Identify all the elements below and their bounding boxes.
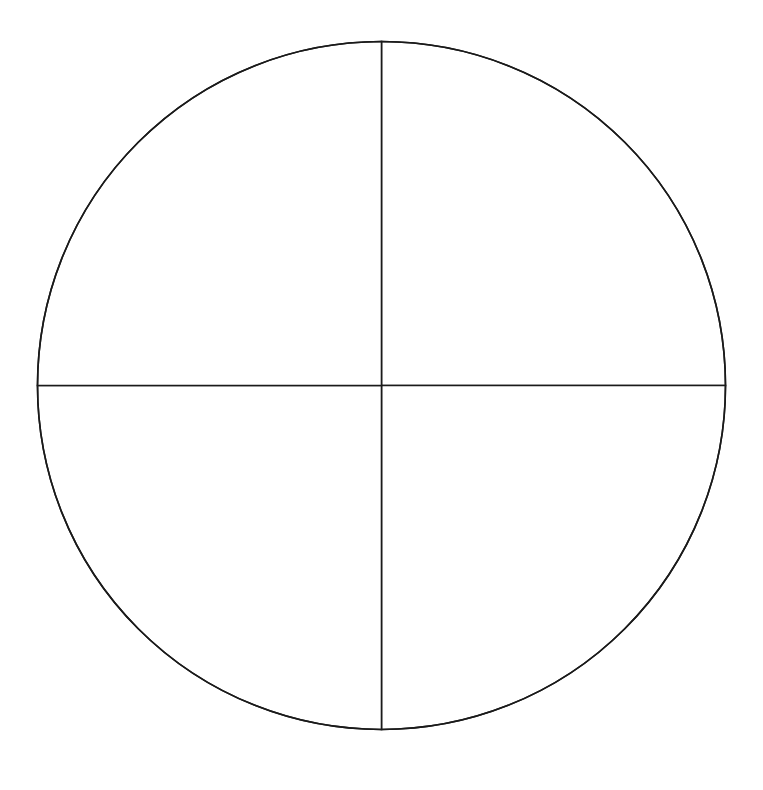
pie-slice-q2 xyxy=(382,386,726,730)
pie-slice-q4 xyxy=(38,42,382,386)
pie-slice-q3 xyxy=(38,386,382,730)
pie-slice-q1 xyxy=(382,42,726,386)
pie-slices xyxy=(38,42,726,730)
pie-chart xyxy=(0,0,763,790)
